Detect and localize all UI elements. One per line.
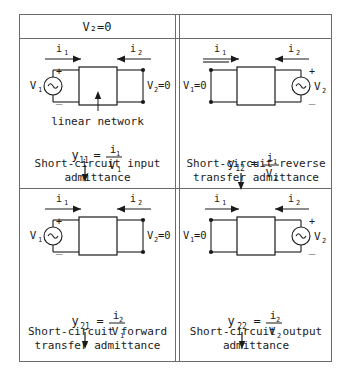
- polarity-plus: +: [309, 66, 315, 77]
- quadrant-short-circuit-output-admittance: i 1 i 2 V 1 =0: [180, 189, 332, 362]
- voltage-label-v2-sub: 2: [322, 237, 326, 245]
- current-label-i1-sub: 1: [63, 49, 67, 57]
- polarity-minus: _: [55, 92, 62, 105]
- quadrant-short-circuit-forward-transfer-admittance: i 1 i 2 + _ V 1: [20, 189, 175, 362]
- polarity-plus: +: [55, 216, 61, 227]
- linear-network-note: linear network: [20, 115, 175, 128]
- current-label-i2: i: [129, 193, 135, 204]
- column-divider-left: [175, 14, 176, 362]
- current-label-i1-sub: 1: [63, 199, 67, 207]
- current-label-i1: i: [214, 43, 220, 54]
- current-label-i2-sub: 2: [137, 199, 141, 207]
- voltage-label-v2-sub: 2: [322, 87, 326, 95]
- voltage-label-v2: V: [314, 80, 321, 93]
- voltage-label-v1-sub: 1: [37, 86, 41, 94]
- caption-q3: Short-circuit forward transfer admittanc…: [20, 325, 175, 353]
- current-label-i2: i: [288, 193, 294, 204]
- admittance-parameter-table: V₂=0 i 1 i 2: [0, 0, 352, 376]
- header-condition-label: V₂=0: [19, 17, 175, 37]
- circuit-diagram-q2: i 1 i 2 V 1 =0: [180, 39, 332, 117]
- voltage-label-v1-shorted: V: [183, 229, 190, 241]
- circuit-diagram-q3: i 1 i 2 + _ V 1: [20, 189, 175, 267]
- current-label-i2: i: [129, 43, 135, 54]
- voltage-label-v2: V: [314, 230, 321, 243]
- voltage-label-v2-shorted: V: [147, 229, 154, 241]
- current-label-i1-sub: 1: [222, 199, 226, 207]
- caption-q1: Short-circuit input admittance: [20, 157, 175, 185]
- voltage-label-v2-shorted-eq: =0: [158, 229, 171, 241]
- voltage-label-v1: V: [29, 79, 36, 92]
- voltage-label-v1: V: [29, 229, 36, 242]
- current-label-i2-sub: 2: [296, 49, 300, 57]
- circuit-diagram-q1: i 1 i 2 + _: [20, 39, 175, 117]
- current-label-i1-sub: 1: [222, 49, 226, 57]
- caption-q4: Short-circuit output admittance: [180, 325, 332, 353]
- voltage-label-v2-shorted: V: [147, 79, 154, 91]
- voltage-label-v1-sub: 1: [37, 236, 41, 244]
- circuit-diagram-q4: i 1 i 2 V 1 =0: [180, 189, 332, 267]
- linear-network-box: [237, 217, 275, 255]
- caption-q2: Short-circuit reverse transfer admittanc…: [180, 157, 332, 185]
- polarity-plus: +: [55, 66, 61, 77]
- linear-network-box: [237, 67, 275, 105]
- current-label-i1: i: [55, 193, 61, 204]
- voltage-label-v1-shorted: V: [183, 79, 190, 91]
- voltage-label-v1-shorted-eq: =0: [194, 229, 207, 241]
- current-label-i1: i: [214, 193, 220, 204]
- current-label-i2-sub: 2: [296, 199, 300, 207]
- quadrant-short-circuit-input-admittance: i 1 i 2 + _: [20, 39, 175, 188]
- quadrant-short-circuit-reverse-transfer-admittance: i 1 i 2 V 1 =0: [180, 39, 332, 188]
- current-label-i1: i: [55, 43, 61, 54]
- polarity-plus: +: [309, 216, 315, 227]
- voltage-label-v1-shorted-eq: =0: [194, 79, 207, 91]
- current-label-i2-sub: 2: [137, 49, 141, 57]
- circuit-svg-q3: i 1 i 2 + _ V 1: [23, 189, 173, 267]
- polarity-minus: _: [55, 242, 62, 255]
- polarity-minus: _: [309, 242, 316, 255]
- circuit-svg-q4: i 1 i 2 V 1 =0: [181, 189, 331, 267]
- circuit-svg-q1: i 1 i 2 + _: [23, 39, 173, 117]
- linear-network-box: [79, 217, 117, 255]
- current-label-i2: i: [288, 43, 294, 54]
- polarity-minus: _: [309, 92, 316, 105]
- circuit-svg-q2: i 1 i 2 V 1 =0: [181, 39, 331, 117]
- voltage-label-v2-shorted-eq: =0: [158, 79, 171, 91]
